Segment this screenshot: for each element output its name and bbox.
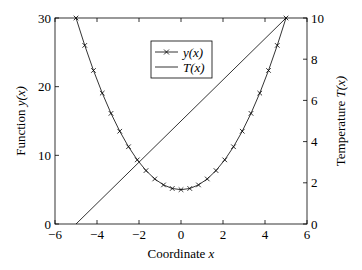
x-tick-label: 6: [304, 227, 311, 242]
x-marker-icon: [231, 144, 236, 149]
x-marker-icon: [222, 158, 227, 163]
chart: −6−4−2024601020300246810 y(x) T(x) Coord…: [0, 0, 362, 270]
x-marker-icon: [240, 129, 245, 134]
y-tick-label: 10: [38, 148, 51, 163]
y2-tick-label: 10: [311, 11, 324, 26]
x-marker-icon: [82, 43, 87, 48]
x-marker-icon: [249, 111, 254, 116]
x-marker-icon: [109, 111, 114, 116]
y-axis-label: Function y(x): [13, 86, 28, 156]
y2-tick-label: 6: [311, 93, 318, 108]
y-tick-label: 0: [45, 217, 52, 232]
x-marker-icon: [266, 68, 271, 73]
x-marker-icon: [214, 168, 219, 173]
y2-axis-label: Temperature T(x): [333, 76, 348, 166]
x-tick-label: 2: [220, 227, 227, 242]
x-marker-icon: [196, 183, 201, 188]
x-tick-label: 0: [178, 227, 185, 242]
y2-tick-label: 4: [311, 134, 318, 149]
y-tick-label: 20: [38, 79, 51, 94]
legend: y(x) T(x): [151, 41, 212, 78]
x-marker-icon: [117, 129, 122, 134]
x-marker-icon: [257, 91, 262, 96]
x-marker-icon: [100, 91, 105, 96]
legend-y-label: y(x): [181, 45, 203, 60]
x-tick-label: 4: [262, 227, 269, 242]
legend-t-label: T(x): [183, 60, 205, 75]
x-axis-label: Coordinate x: [148, 246, 215, 261]
x-marker-icon: [275, 43, 280, 48]
x-marker-icon: [161, 183, 166, 188]
x-marker-icon: [126, 144, 131, 149]
x-marker-icon: [144, 168, 149, 173]
x-tick-label: −2: [132, 227, 146, 242]
x-marker-icon: [135, 158, 140, 163]
y2-tick-label: 0: [311, 217, 318, 232]
x-tick-label: −4: [90, 227, 104, 242]
y2-tick-label: 2: [311, 175, 318, 190]
x-marker-icon: [152, 177, 157, 182]
x-marker-icon: [91, 68, 96, 73]
x-marker-icon: [205, 177, 210, 182]
y2-tick-label: 8: [311, 52, 318, 67]
y-tick-label: 30: [38, 11, 51, 26]
